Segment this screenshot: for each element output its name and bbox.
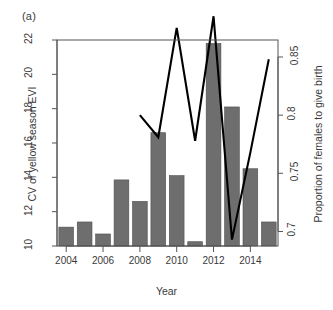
bar-series bbox=[59, 43, 276, 246]
y-ticklabel-14: 14 bbox=[23, 170, 34, 181]
x-ticklabel-2004: 2004 bbox=[50, 255, 82, 266]
x-ticklabel-2010: 2010 bbox=[161, 255, 193, 266]
x-ticklabel-2006: 2006 bbox=[87, 255, 119, 266]
y-ticklabel-12: 12 bbox=[23, 205, 34, 216]
bar-2004 bbox=[59, 227, 74, 246]
bar-2005 bbox=[77, 222, 92, 246]
y2-ticklabel-0.85: 0.85 bbox=[289, 46, 300, 65]
y2-ticklabel-0.8: 0.8 bbox=[286, 107, 297, 121]
figure-panel: (a) CV of yellow season EVI Proportion o… bbox=[0, 0, 333, 310]
bar-2015 bbox=[261, 222, 276, 246]
bar-2010 bbox=[169, 176, 184, 246]
bar-2008 bbox=[133, 201, 148, 246]
x-ticklabel-2014: 2014 bbox=[234, 255, 266, 266]
y-ticklabel-22: 22 bbox=[23, 33, 34, 44]
y-ticklabel-18: 18 bbox=[23, 102, 34, 113]
y-ticklabel-20: 20 bbox=[23, 67, 34, 78]
y-ticklabel-10: 10 bbox=[23, 239, 34, 250]
x-ticklabel-2012: 2012 bbox=[198, 255, 230, 266]
y2-ticklabel-0.7: 0.7 bbox=[286, 223, 297, 237]
bar-2009 bbox=[151, 133, 166, 246]
y2-ticklabel-0.75: 0.75 bbox=[289, 162, 300, 181]
bar-2007 bbox=[114, 180, 129, 246]
bar-2011 bbox=[188, 242, 203, 246]
y-ticklabel-16: 16 bbox=[23, 136, 34, 147]
x-ticklabel-2008: 2008 bbox=[124, 255, 156, 266]
bar-2006 bbox=[96, 234, 111, 246]
